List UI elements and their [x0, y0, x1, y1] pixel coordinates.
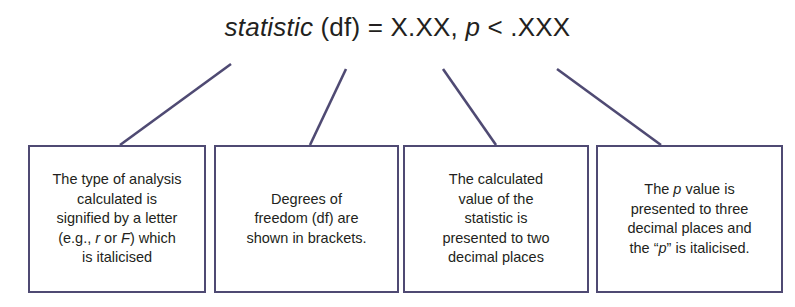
connector-statistic: [120, 64, 231, 145]
connector-df: [310, 69, 346, 145]
box-3-line-2: value of the: [459, 191, 534, 207]
formula-statistic-term: statistic: [225, 12, 313, 42]
box-1-line-3: signified by a letter: [57, 210, 178, 226]
box-1-line-4-middle: or: [100, 230, 121, 246]
formula-heading: statistic (df) = X.XX, p < .XXX: [0, 10, 795, 44]
connector-pvalue: [557, 69, 661, 145]
box-3-line-4: presented to two: [442, 230, 549, 246]
box-4-line-4-prefix: the “: [629, 240, 658, 256]
box-1-line-1: The type of analysis: [53, 171, 182, 187]
connector-value: [443, 69, 496, 145]
box-3-line-3: statistic is: [465, 210, 528, 226]
box-1-line-4-prefix: (e.g.,: [58, 230, 95, 246]
box-4-line-2: presented to three: [631, 201, 749, 217]
box-4-line-3: decimal places and: [627, 220, 751, 236]
statistic-letter-explanation-box: The type of analysis calculated is signi…: [28, 145, 206, 293]
formula-value-term: X.XX,: [391, 12, 466, 42]
formula-df-term: (df) =: [313, 12, 390, 42]
calculated-value-explanation-box: The calculated value of the statistic is…: [403, 145, 589, 293]
diagram-canvas: statistic (df) = X.XX, p < .XXX The type…: [0, 0, 795, 307]
formula-p-term: p: [465, 12, 480, 42]
box-1-line-5: is italicised: [82, 249, 152, 265]
box-1-text: The type of analysis calculated is signi…: [36, 170, 198, 268]
box-2-line-1: Degrees of: [271, 191, 342, 207]
formula-pvalue-term: < .XXX: [480, 12, 570, 42]
box-3-line-1: The calculated: [449, 171, 543, 187]
box-3-text: The calculated value of the statistic is…: [411, 170, 581, 268]
box-4-text: The p value is presented to three decima…: [604, 180, 775, 258]
box-4-line-1-prefix: The: [644, 181, 673, 197]
box-1-line-4-suffix: ) which: [130, 230, 176, 246]
box-4-line-1-suffix: value is: [681, 181, 734, 197]
box-2-line-2: freedom (df) are: [255, 210, 359, 226]
box-2-text: Degrees of freedom (df) are shown in bra…: [222, 190, 391, 249]
box-2-line-3: shown in brackets.: [246, 230, 366, 246]
box-4-symbol-p-second: p: [658, 240, 666, 256]
box-4-line-4-suffix: ” is italicised.: [667, 240, 750, 256]
degrees-of-freedom-explanation-box: Degrees of freedom (df) are shown in bra…: [214, 145, 399, 293]
box-1-symbol-f: F: [121, 230, 130, 246]
box-1-line-2: calculated is: [77, 191, 157, 207]
box-3-line-5: decimal places: [448, 249, 544, 265]
p-value-explanation-box: The p value is presented to three decima…: [596, 145, 783, 293]
